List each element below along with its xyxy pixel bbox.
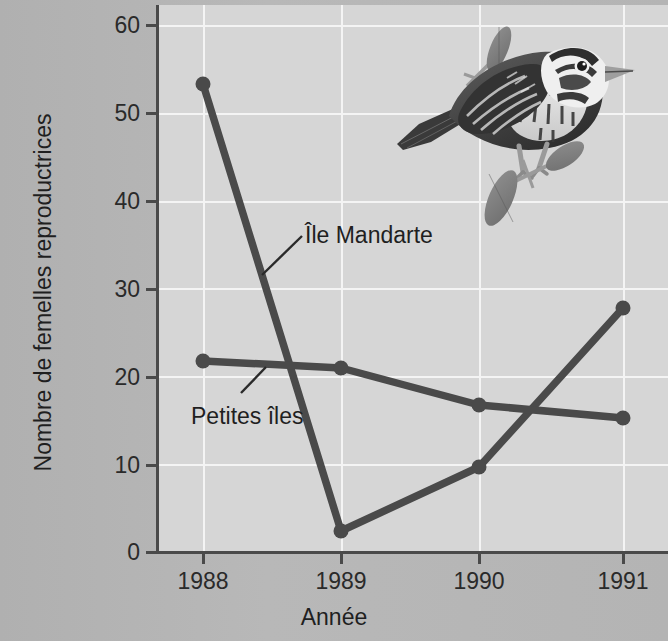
- y-tick-label-20: 20: [114, 364, 140, 391]
- y-tick-10: [146, 464, 156, 467]
- y-axis-line: [156, 5, 159, 554]
- song-sparrow-illustration: [389, 16, 641, 228]
- series-label-ile-mandarte: Île Mandarte: [305, 222, 433, 249]
- y-axis-title: Nombre de femelles reproductrices: [30, 43, 57, 543]
- bird-beak: [605, 66, 635, 82]
- y-tick-50: [146, 112, 156, 115]
- y-tick-label-40: 40: [114, 188, 140, 215]
- chart-figure: 60 50 40 30 20 10 0 1988 1989 1990 1991 …: [0, 0, 668, 641]
- x-tick-1988: [202, 553, 205, 564]
- y-tick-40: [146, 200, 156, 203]
- x-tick-label-1991: 1991: [597, 568, 648, 595]
- gridline-x-1988: [203, 5, 205, 553]
- y-tick-label-30: 30: [114, 276, 140, 303]
- x-tick-label-1988: 1988: [177, 568, 228, 595]
- y-tick-label-10: 10: [114, 452, 140, 479]
- gridline-y-20: [158, 376, 668, 378]
- series-label-petites-iles: Petites îles: [191, 403, 304, 430]
- y-tick-label-60: 60: [114, 12, 140, 39]
- y-tick-60: [146, 24, 156, 27]
- x-tick-1991: [622, 553, 625, 564]
- x-tick-label-1990: 1990: [453, 568, 504, 595]
- gridline-y-10: [158, 464, 668, 466]
- y-tick-30: [146, 288, 156, 291]
- y-tick-label-0: 0: [127, 539, 140, 566]
- x-axis-line: [156, 551, 668, 554]
- x-tick-1989: [340, 553, 343, 564]
- gridline-y-30: [158, 288, 668, 290]
- y-tick-20: [146, 376, 156, 379]
- y-tick-0: [146, 551, 156, 554]
- y-tick-label-50: 50: [114, 100, 140, 127]
- gridline-x-1989: [341, 5, 343, 553]
- x-axis-title: Année: [0, 604, 668, 631]
- x-tick-label-1989: 1989: [315, 568, 366, 595]
- x-tick-1990: [478, 553, 481, 564]
